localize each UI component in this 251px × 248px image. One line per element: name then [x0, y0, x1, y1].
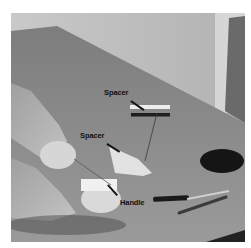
photo-scene [11, 13, 245, 242]
photo [11, 13, 245, 242]
label-spacer-middle: Spacer [80, 131, 104, 140]
shadow [11, 215, 126, 235]
label-spacer-top: Spacer [104, 88, 128, 97]
wire-coil [200, 149, 244, 173]
label-handle: Handle [120, 198, 144, 207]
hand-upper [40, 141, 76, 169]
spacer-top-dark [131, 113, 170, 117]
